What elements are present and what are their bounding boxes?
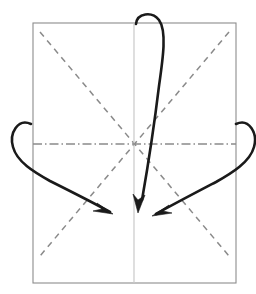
- diagram-canvas: [0, 0, 256, 294]
- origami-diagram: [0, 0, 256, 294]
